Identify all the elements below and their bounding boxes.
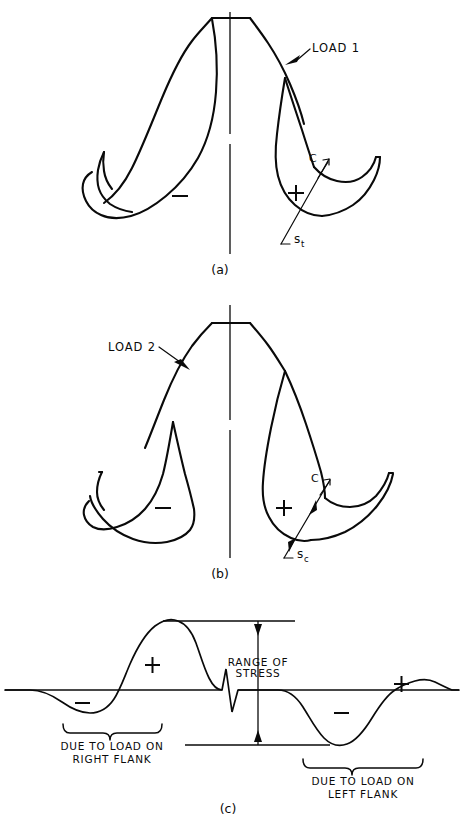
brace-left-c [63, 724, 162, 740]
point-c-label-b: C [311, 472, 319, 485]
caption-right-line2-c: LEFT FLANK [328, 788, 398, 800]
stress-lobe-right-b [285, 371, 325, 498]
positive-sign-a [288, 185, 304, 201]
stress-symbol-label-b: s [297, 547, 303, 561]
figure-canvas: C s t LOAD 1 (a) [0, 0, 464, 821]
point-c-label-a: C [309, 152, 317, 165]
caption-right-line1-c: DUE TO LOAD ON [311, 775, 414, 787]
range-arrow-top-c [254, 624, 262, 636]
tooth-right-flank-a [250, 18, 304, 124]
stress-lobe-left-a [83, 19, 217, 218]
caption-left-line1-c: DUE TO LOAD ON [60, 740, 163, 752]
load-label-b: LOAD 2 [108, 340, 156, 354]
stress-vector-arrow-top-b [309, 500, 317, 515]
waveform-left-c [5, 620, 222, 713]
stress-vector-arrow-bottom-b [288, 538, 296, 552]
stress-subscript-label-b: c [304, 554, 309, 564]
brace-right-c [303, 759, 423, 775]
flank-hook-left-a [103, 152, 112, 189]
load-arrowhead-a [285, 55, 300, 65]
panel-caption-c: (c) [220, 801, 237, 816]
positive-sign-b [276, 500, 292, 516]
gear-tooth-stress-figure: C s t LOAD 1 (a) [0, 0, 464, 821]
load-leader-b [159, 347, 180, 362]
stress-lobe-left-lower-b [90, 422, 194, 543]
stress-lobe-right-inner-a [276, 78, 322, 216]
positive-sign-left-c [145, 657, 160, 673]
load-label-a: LOAD 1 [312, 41, 360, 55]
stress-subscript-label-a: t [301, 239, 305, 249]
panel-caption-a: (a) [211, 262, 228, 277]
panel-caption-b: (b) [211, 566, 229, 581]
panel-c: RANGE OF STRESS DUE TO LOAD ON RIGHT FLA… [5, 620, 459, 816]
load-arrowhead-b [174, 359, 190, 370]
stress-symbol-label-a: s [294, 232, 300, 246]
panel-a: C s t LOAD 1 (a) [83, 12, 380, 277]
flank-hook-left-b [97, 472, 104, 510]
tooth-left-flank-a [104, 18, 212, 203]
range-label-line2-c: STRESS [235, 667, 280, 679]
caption-left-line2-c: RIGHT FLANK [72, 753, 151, 765]
range-arrow-bottom-c [254, 730, 262, 742]
panel-b: C s c LOAD 2 (b) [84, 305, 393, 581]
stress-lobe-right-inner-b [263, 371, 311, 541]
tooth-right-flank-b [250, 323, 285, 371]
